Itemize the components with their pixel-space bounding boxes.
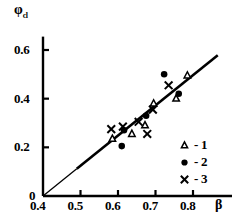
x-tick-label: 0.7 — [143, 198, 158, 214]
legend-item-3: - 3 — [178, 171, 207, 187]
data-point-series-2 — [175, 91, 182, 98]
legend-item-2: - 2 — [178, 154, 207, 170]
legend-label: - 2 — [194, 154, 207, 170]
scatter-plot-canvas — [0, 0, 238, 223]
filled-circle-icon — [178, 156, 191, 169]
data-point-series-1 — [109, 135, 116, 141]
data-point-series-2 — [118, 143, 125, 150]
open-triangle-glyph — [181, 141, 187, 147]
data-point-series-1 — [150, 100, 157, 106]
x-tick-label: 0.5 — [68, 198, 83, 214]
open-triangle-icon — [178, 139, 191, 152]
x-tick-label: 0.6 — [105, 198, 120, 214]
y-tick-label: 0 — [29, 188, 35, 204]
data-point-series-2 — [161, 71, 168, 78]
y-tick-label: 0.2 — [14, 139, 29, 155]
x-tick-label: 0.8 — [180, 198, 195, 214]
y-axis-title-symbol: φ — [14, 2, 23, 17]
data-point-series-2 — [143, 112, 150, 119]
legend-item-1: - 1 — [178, 137, 207, 153]
cross-icon — [178, 173, 191, 186]
y-tick-label: 0.6 — [14, 42, 29, 58]
data-point-series-1 — [184, 72, 191, 78]
legend-label: - 1 — [194, 137, 207, 153]
y-axis-title-subscript: cl — [23, 11, 28, 20]
chart-figure: φcl β 0.40.50.60.70.8 00.20.40.6 - 1- 2-… — [0, 0, 238, 223]
filled-circle-glyph — [181, 159, 187, 165]
data-point-series-1 — [129, 130, 136, 136]
y-axis-title: φcl — [14, 2, 28, 20]
legend-label: - 3 — [194, 171, 207, 187]
reference-line-thin — [43, 169, 77, 196]
y-tick-label: 0.4 — [14, 91, 29, 107]
x-axis-title: β — [215, 197, 222, 213]
